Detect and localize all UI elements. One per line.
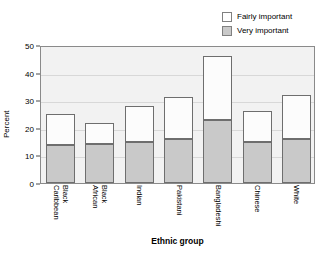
bars-layer [41, 47, 314, 183]
bar-segment-very-important [46, 145, 75, 183]
bar-group [203, 56, 232, 183]
bar-segment-very-important [164, 139, 193, 183]
legend-swatch-fairly-important-icon [222, 12, 232, 22]
x-tick-label: BlackAfrican [91, 185, 108, 208]
y-axis-title: Percent [2, 110, 11, 138]
bar-segment-very-important [203, 120, 232, 183]
bar-segment-very-important [282, 139, 311, 183]
legend-label-fairly-important: Fairly important [237, 12, 292, 22]
x-tick-label: BlackCaribbean [52, 185, 69, 220]
bar-segment-fairly-important [203, 56, 232, 119]
bar-segment-fairly-important [125, 106, 154, 142]
legend-swatch-very-important-icon [222, 26, 232, 36]
bar-segment-fairly-important [85, 123, 114, 144]
x-tick-label: Indian [135, 185, 144, 205]
x-axis-title: Ethnic group [40, 236, 315, 246]
bar-group [85, 123, 114, 183]
y-tick-label: 40 [25, 69, 34, 78]
bar-segment-fairly-important [243, 111, 272, 141]
bar-group [243, 111, 272, 183]
x-tick-label: Pakistani [174, 185, 183, 215]
y-tick-label: 20 [25, 124, 34, 133]
y-tick-label: 50 [25, 42, 34, 51]
x-tick-label: White [292, 185, 301, 204]
legend-label-very-important: Very important [237, 26, 289, 36]
bar-segment-fairly-important [164, 97, 193, 138]
bar-segment-fairly-important [282, 95, 311, 139]
bar-group [46, 114, 75, 183]
stacked-bar-chart: Fairly important Very important Percent … [0, 0, 319, 253]
bar-segment-very-important [243, 142, 272, 183]
bar-segment-very-important [85, 144, 114, 183]
bar-group [125, 106, 154, 183]
bar-segment-very-important [125, 142, 154, 183]
bar-group [164, 97, 193, 183]
chart-legend: Fairly important Very important [222, 11, 314, 37]
bar-segment-fairly-important [46, 114, 75, 145]
x-axis: BlackCaribbeanBlackAfricanIndianPakistan… [40, 185, 315, 233]
plot-area [40, 46, 315, 184]
y-axis: Percent 01020304050 [0, 46, 40, 184]
x-tick-label: Chinese [253, 185, 262, 213]
legend-item-very-important: Very important [222, 25, 314, 37]
legend-item-fairly-important: Fairly important [222, 11, 314, 23]
bar-group [282, 95, 311, 183]
y-tick-label: 10 [25, 152, 34, 161]
y-tick-label: 0 [30, 180, 34, 189]
x-tick-label: Bangladeshi [213, 185, 222, 226]
y-tick-label: 30 [25, 97, 34, 106]
